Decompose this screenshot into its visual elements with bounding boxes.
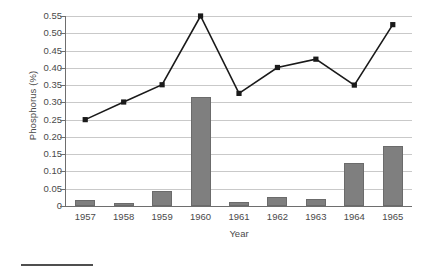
y-axis-tick-label: 0.50 [26,29,62,39]
gridline [66,206,412,207]
y-axis-tick-labels: 00.050.100.150.200.250.300.350.400.450.5… [26,0,62,273]
y-axis-tick-mark [60,171,65,172]
y-axis-tick-label: 0.20 [26,132,62,142]
y-axis-tick-label: 0.10 [26,167,62,177]
x-axis-tick-label: 1962 [267,212,288,222]
line-marker [275,65,280,70]
line-marker [160,82,165,87]
x-axis-tick-labels: 195719581959196019611962196319641965 [66,212,412,228]
y-axis-tick-label: 0.55 [26,11,62,21]
y-axis-tick-label: 0.25 [26,115,62,125]
y-axis-tick-mark [60,102,65,103]
y-axis-tick-label: 0.15 [26,149,62,159]
y-axis-tick-label: 0.30 [26,98,62,108]
x-axis-tick-label: 1957 [75,212,96,222]
x-axis-tick-label: 1959 [152,212,173,222]
y-axis-tick-label: 0.45 [26,46,62,56]
line-marker [313,57,318,62]
x-axis-tick-label: 1963 [305,212,326,222]
line-marker [121,99,126,104]
y-axis-tick-mark [60,189,65,190]
y-axis-tick-mark [60,85,65,86]
y-axis-tick-mark [60,137,65,138]
line-marker [390,22,395,27]
footer-rule [21,264,93,266]
y-axis-tick-mark [60,51,65,52]
line-marker [83,117,88,122]
y-axis-tick-mark [60,206,65,207]
x-axis-tick-label: 1961 [228,212,249,222]
y-axis-tick-mark [60,16,65,17]
x-axis-tick-label: 1964 [344,212,365,222]
y-axis-tick-mark [60,120,65,121]
x-axis-tick-label: 1960 [190,212,211,222]
plot-area [66,16,412,206]
y-axis-tick-mark [60,68,65,69]
x-axis-tick-label: 1958 [113,212,134,222]
y-axis-tick-mark [60,154,65,155]
y-axis-tick-label: 0.05 [26,184,62,194]
line-marker [236,91,241,96]
x-axis-title: Year [66,228,412,239]
chart-figure: Phosphorus (%) 00.050.100.150.200.250.30… [0,0,433,273]
y-axis-tick-label: 0 [26,201,62,211]
line-marker [352,82,357,87]
x-axis-tick-label: 1965 [382,212,403,222]
line-path [85,16,393,120]
y-axis-tick-label: 0.40 [26,63,62,73]
y-axis-tick-mark [60,33,65,34]
line-marker [198,13,203,18]
y-axis-tick-label: 0.35 [26,80,62,90]
line-series [66,16,412,206]
